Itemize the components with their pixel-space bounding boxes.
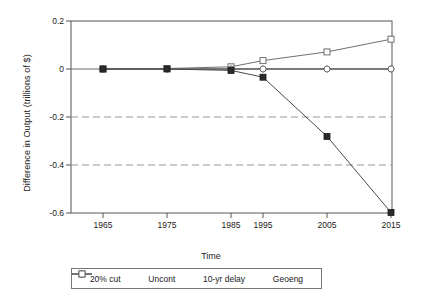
x-tick-label: 1995 — [238, 220, 288, 230]
x-tick-label: 1965 — [78, 220, 128, 230]
legend-item-geoeng[interactable]: Geoeng — [273, 274, 303, 284]
legend-label: 10-yr delay — [203, 274, 245, 284]
legend-label: Geoeng — [273, 274, 303, 284]
series-geoeng — [100, 36, 394, 72]
legend-item-10yr-delay[interactable]: 10-yr delay — [203, 274, 245, 284]
plot-canvas — [0, 0, 422, 297]
legend-item-20pct-cut[interactable]: 20% cut — [90, 274, 121, 284]
legend-label: 20% cut — [90, 274, 121, 284]
x-axis-ticks — [103, 213, 391, 218]
x-tick-label: 2015 — [366, 220, 416, 230]
y-axis-ticks — [66, 21, 71, 213]
chart-figure: Difference in Output (trillions of $) Ti… — [0, 0, 422, 297]
x-tick-label: 2005 — [302, 220, 352, 230]
legend-item-uncont[interactable]: Uncont — [148, 274, 175, 284]
chart-legend: 20% cut Uncont 10-yr delay Geoeng — [71, 268, 322, 289]
x-tick-label: 1975 — [142, 220, 192, 230]
series-20pct-cut — [100, 66, 394, 216]
gridlines — [71, 117, 392, 165]
open-square-marker-icon — [72, 269, 92, 279]
legend-label: Uncont — [148, 274, 175, 284]
